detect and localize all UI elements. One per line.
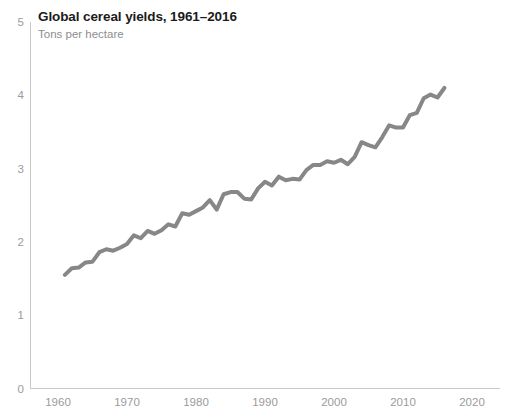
x-tick-label-1990: 1990 bbox=[252, 396, 278, 408]
x-axis: 1960197019801990200020102020 bbox=[31, 389, 501, 408]
y-tick-labels: 543210 bbox=[18, 16, 25, 395]
y-tick-label-0: 0 bbox=[18, 383, 24, 395]
line-series-global-cereal-yield bbox=[65, 88, 445, 275]
plot-area: 543210 1960197019801990200020102020 bbox=[0, 0, 516, 417]
y-tick-label-5: 5 bbox=[18, 16, 24, 28]
x-tick-labels: 1960197019801990200020102020 bbox=[45, 396, 485, 408]
data-series-group bbox=[65, 88, 445, 275]
x-tick-label-1980: 1980 bbox=[183, 396, 209, 408]
y-tick-label-4: 4 bbox=[18, 89, 25, 101]
y-tick-label-1: 1 bbox=[18, 309, 24, 321]
chart-container: Global cereal yields, 1961–2016 Tons per… bbox=[0, 0, 516, 417]
x-tick-label-1970: 1970 bbox=[114, 396, 140, 408]
x-tick-label-1960: 1960 bbox=[45, 396, 71, 408]
x-tick-label-2000: 2000 bbox=[321, 396, 347, 408]
x-tick-label-2010: 2010 bbox=[390, 396, 416, 408]
x-tick-label-2020: 2020 bbox=[459, 396, 485, 408]
y-tick-label-3: 3 bbox=[18, 163, 24, 175]
y-axis: 543210 bbox=[18, 16, 31, 395]
y-tick-label-2: 2 bbox=[18, 236, 24, 248]
